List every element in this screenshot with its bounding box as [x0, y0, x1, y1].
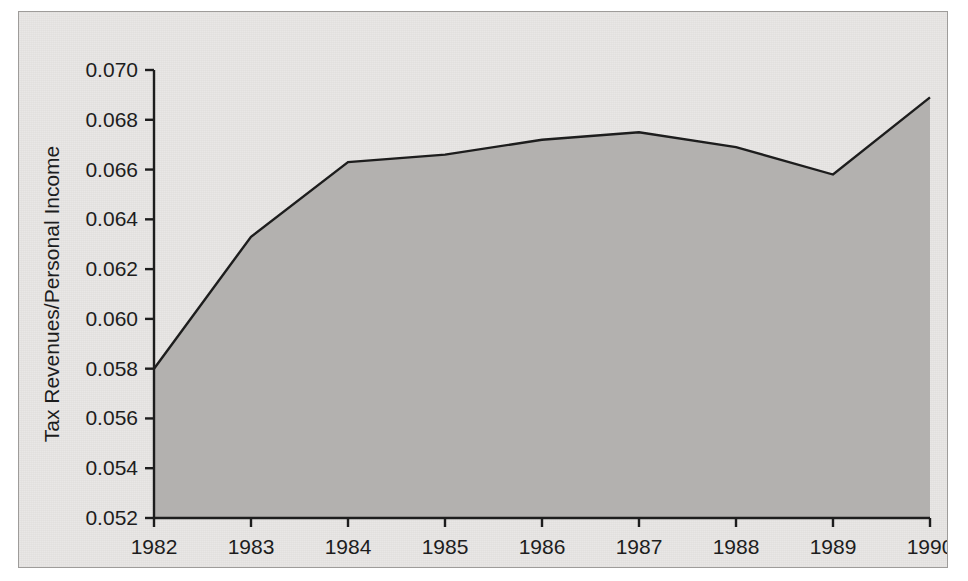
y-tick-label: 0.052 [85, 506, 138, 529]
y-tick-label: 0.056 [85, 406, 138, 429]
x-tick-label: 1982 [131, 535, 178, 558]
x-tick-label: 1990 [907, 535, 947, 558]
y-axis-ticks [145, 70, 154, 518]
x-tick-label: 1988 [713, 535, 760, 558]
x-tick-label: 1989 [810, 535, 857, 558]
area-chart: 0.0520.0540.0560.0580.0600.0620.0640.066… [19, 12, 947, 567]
x-tick-label: 1983 [228, 535, 275, 558]
chart-panel: 0.0520.0540.0560.0580.0600.0620.0640.066… [18, 11, 948, 568]
x-axis-tick-labels: 198219831984198519861987198819891990 [131, 535, 947, 558]
y-axis-tick-labels: 0.0520.0540.0560.0580.0600.0620.0640.066… [85, 58, 138, 529]
y-tick-label: 0.070 [85, 58, 138, 81]
x-tick-label: 1987 [616, 535, 663, 558]
y-tick-label: 0.062 [85, 257, 138, 280]
y-axis-title: Tax Revenues/Personal Income [40, 146, 63, 443]
x-tick-label: 1984 [325, 535, 372, 558]
y-tick-label: 0.054 [85, 456, 138, 479]
figure-root: 0.0520.0540.0560.0580.0600.0620.0640.066… [0, 0, 968, 581]
y-tick-label: 0.064 [85, 207, 138, 230]
x-tick-label: 1986 [519, 535, 566, 558]
x-tick-label: 1985 [422, 535, 469, 558]
y-tick-label: 0.060 [85, 307, 138, 330]
series-area-fill [154, 97, 930, 518]
x-axis-ticks [154, 518, 930, 527]
y-tick-label: 0.068 [85, 108, 138, 131]
y-tick-label: 0.066 [85, 158, 138, 181]
y-tick-label: 0.058 [85, 357, 138, 380]
